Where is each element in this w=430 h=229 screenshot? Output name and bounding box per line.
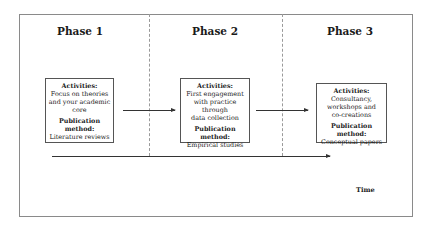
activities-line: core xyxy=(47,106,112,114)
activities-line: First engagement xyxy=(182,90,248,98)
activities-line: and your academic xyxy=(47,98,112,106)
phase-2-box: Activities: First engagement with practi… xyxy=(180,78,250,143)
phase-1-title: Phase 1 xyxy=(30,25,130,37)
publication-value: Empirical studies xyxy=(182,141,248,149)
time-axis-label: Time xyxy=(356,186,396,194)
phase-divider-1 xyxy=(149,14,150,156)
activities-line: data collection xyxy=(182,114,248,122)
phase-1-box: Activities: Focus on theories and your a… xyxy=(45,78,114,143)
time-axis-arrow xyxy=(52,156,330,157)
publication-value: Literature reviews xyxy=(47,133,112,141)
publication-label: Publication method: xyxy=(47,117,112,133)
activities-line: Consultancy, xyxy=(318,95,385,103)
publication-label: Publication method: xyxy=(182,125,248,141)
activities-line: Focus on theories xyxy=(47,90,112,98)
phase-2-title: Phase 2 xyxy=(165,25,265,37)
phase-3-box: Activities: Consultancy, workshops and c… xyxy=(316,83,387,143)
phase-divider-2 xyxy=(282,14,283,156)
activities-label: Activities: xyxy=(318,87,385,95)
publication-label: Publication method: xyxy=(318,122,385,138)
phase-3-title: Phase 3 xyxy=(300,25,400,37)
publication-value: Conceptual papers xyxy=(318,138,385,146)
arrow-phase-1-to-2 xyxy=(123,110,175,111)
activities-line: co-creations xyxy=(318,111,385,119)
arrow-phase-2-to-3 xyxy=(256,110,308,111)
activities-label: Activities: xyxy=(182,82,248,90)
activities-line: with practice through xyxy=(182,98,248,114)
activities-line: workshops and xyxy=(318,103,385,111)
activities-label: Activities: xyxy=(47,82,112,90)
